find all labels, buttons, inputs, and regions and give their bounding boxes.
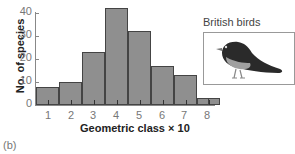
x-tick-8: 8 — [201, 109, 213, 121]
bar-8 — [208, 98, 220, 105]
bar-tickmark — [117, 100, 118, 105]
bird-illustration — [203, 32, 295, 85]
bar-tickmark — [209, 100, 210, 105]
inset-title: British birds — [203, 16, 260, 28]
y-tickmark — [35, 13, 39, 14]
y-tickmark — [35, 36, 39, 37]
bar-tickmark — [186, 100, 187, 105]
y-tick-10: 10 — [12, 74, 32, 86]
x-tick-6: 6 — [156, 109, 168, 121]
y-tickmark — [35, 82, 39, 83]
y-tick-30: 30 — [12, 28, 32, 40]
y-tick-20: 20 — [12, 51, 32, 63]
y-tick-40: 40 — [12, 5, 32, 17]
x-tick-1: 1 — [42, 109, 54, 121]
y-tickmark — [35, 59, 39, 60]
bar-tickmark — [140, 100, 141, 105]
x-tick-3: 3 — [87, 109, 99, 121]
panel-label: (b) — [3, 139, 16, 151]
x-axis-label: Geometric class × 10 — [80, 122, 190, 134]
bar-3 — [82, 52, 105, 105]
bird-icon — [204, 33, 294, 84]
bar-tickmark — [94, 100, 95, 105]
x-tick-4: 4 — [110, 109, 122, 121]
bar-5 — [128, 31, 151, 105]
bar-tickmark — [163, 100, 164, 105]
x-tick-5: 5 — [133, 109, 145, 121]
x-tick-7: 7 — [178, 109, 190, 121]
x-axis-line — [35, 105, 215, 106]
y-tick-0: 0 — [12, 97, 32, 109]
bar-4 — [105, 8, 128, 105]
bar-tickmark — [71, 100, 72, 105]
x-tick-2: 2 — [65, 109, 77, 121]
bar-tickmark — [48, 100, 49, 105]
